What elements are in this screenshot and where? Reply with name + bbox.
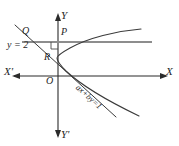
x-axis-left-arrow-icon bbox=[12, 73, 20, 79]
point-label-q: Q bbox=[22, 26, 29, 36]
y-axis-positive-label: Y bbox=[61, 10, 67, 21]
geometry-figure: X' X Y Y' O Q P R y = 2 ax+by=1 bbox=[0, 0, 179, 146]
origin-label: O bbox=[46, 76, 53, 86]
x-axis-negative-label: X' bbox=[4, 66, 13, 77]
x-axis-positive-label: X bbox=[166, 66, 173, 77]
point-label-r: R bbox=[44, 52, 50, 62]
point-label-p: P bbox=[61, 27, 67, 37]
y-axis-negative-label: Y' bbox=[61, 129, 69, 140]
line-label-y-equals-2: y = 2 bbox=[7, 40, 28, 50]
figure-canvas bbox=[0, 0, 179, 146]
